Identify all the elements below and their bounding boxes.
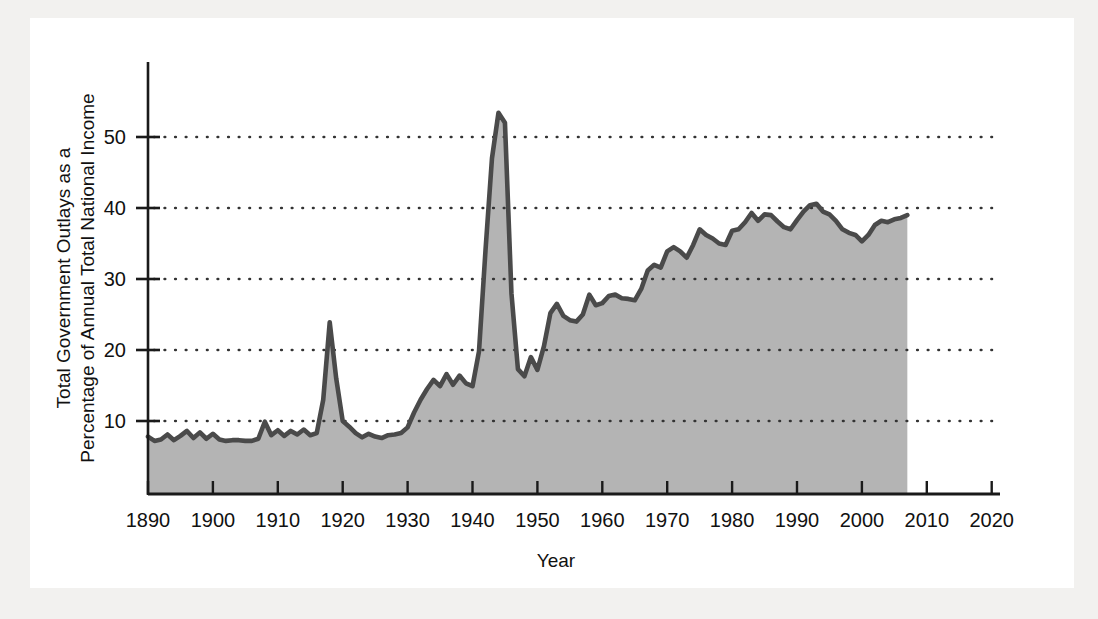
x-tick-label: 1930	[385, 509, 430, 531]
y-tick-group: 1020304050	[104, 126, 160, 432]
x-tick-label: 1950	[515, 509, 560, 531]
x-tick-label: 1910	[256, 509, 301, 531]
x-tick-label: 1900	[191, 509, 236, 531]
chart-plot-area: 1020304050 18901900191019201930194019501…	[0, 0, 1098, 619]
x-tick-label: 1940	[450, 509, 495, 531]
x-tick-label: 1980	[710, 509, 755, 531]
x-tick-label: 2000	[840, 509, 885, 531]
y-tick-label: 30	[104, 268, 126, 290]
area-chart: 1020304050 18901900191019201930194019501…	[0, 0, 1098, 619]
x-tick-label: 1890	[126, 509, 171, 531]
x-tick-label: 1990	[775, 509, 820, 531]
x-tick-label: 2020	[969, 509, 1014, 531]
x-tick-label: 2010	[905, 509, 950, 531]
y-axis-title: Total Government Outlays as a Percentage…	[53, 93, 98, 462]
y-tick-label: 50	[104, 126, 126, 148]
y-tick-label: 40	[104, 197, 126, 219]
x-tick-label: 1970	[645, 509, 690, 531]
y-axis-title-line-2: Percentage of Annual Total National Inco…	[77, 93, 98, 462]
x-axis-title: Year	[537, 550, 576, 571]
x-tick-label: 1960	[580, 509, 625, 531]
plot-fill-group	[148, 113, 907, 494]
x-tick-label: 1920	[320, 509, 365, 531]
y-tick-label: 10	[104, 410, 126, 432]
area-fill-path	[148, 113, 907, 494]
y-axis-title-line-1: Total Government Outlays as a	[53, 147, 74, 408]
y-tick-label: 20	[104, 339, 126, 361]
figure-root: 1020304050 18901900191019201930194019501…	[0, 0, 1098, 619]
